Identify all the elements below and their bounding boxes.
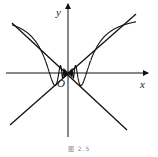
origin-label: O (57, 77, 65, 89)
x-axis-label: x (139, 78, 145, 90)
line-y-equals-x (10, 14, 136, 125)
function-graph: x y O (0, 0, 158, 157)
line-y-equals-neg-x (12, 23, 127, 130)
curve-x-sin-inv-x (12, 22, 136, 86)
y-axis-label: y (55, 6, 61, 18)
figure-caption: 图 2.5 (0, 144, 158, 153)
